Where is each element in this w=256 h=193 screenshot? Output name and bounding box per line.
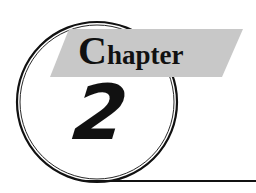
chapter-title: Chapter bbox=[78, 31, 183, 71]
chapter-title-rest: hapter bbox=[107, 40, 184, 70]
chapter-title-initial: C bbox=[78, 28, 107, 73]
chapter-number: 2 bbox=[70, 75, 131, 151]
